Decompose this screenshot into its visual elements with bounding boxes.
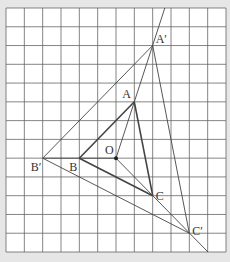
- label-O: O: [105, 144, 114, 156]
- center-point-dot: [114, 156, 118, 160]
- label-B: B: [69, 161, 77, 173]
- homothety-diagram: [0, 0, 230, 262]
- label-C-prime: C′: [192, 225, 203, 237]
- label-C: C: [156, 190, 164, 202]
- label-A: A: [122, 88, 131, 100]
- point-markers: [114, 156, 118, 160]
- label-B-prime: B′: [31, 161, 42, 173]
- label-A-prime: A′: [156, 33, 167, 45]
